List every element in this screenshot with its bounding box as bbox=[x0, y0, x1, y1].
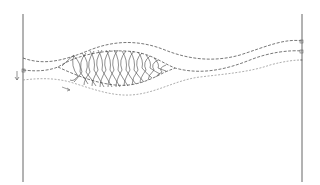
net-diagram bbox=[0, 0, 320, 185]
upper-boundary-line bbox=[23, 40, 302, 61]
flow-arrow-icon bbox=[62, 87, 70, 91]
right-anchor-mark-low bbox=[301, 59, 303, 61]
lower-boundary-line bbox=[23, 60, 302, 95]
mesh-lattice bbox=[62, 50, 166, 87]
down-arrow-icon bbox=[15, 71, 19, 80]
